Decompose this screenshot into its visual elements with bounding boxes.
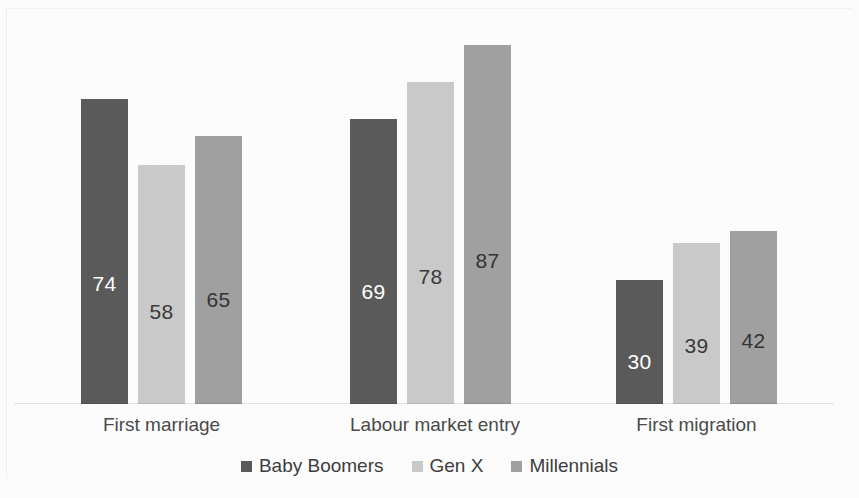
bar-value-label: 87 (464, 250, 511, 271)
category-label: Labour market entry (350, 414, 511, 436)
bar: 78 (407, 82, 454, 404)
x-axis-baseline (14, 403, 834, 404)
legend-swatch-icon (412, 461, 423, 472)
category-label: First migration (616, 414, 777, 436)
bar: 58 (138, 165, 185, 404)
bar: 87 (464, 45, 511, 404)
bar-value-label: 30 (616, 351, 663, 372)
bar-value-label: 42 (730, 330, 777, 351)
bar-value-label: 78 (407, 266, 454, 287)
bar: 65 (195, 136, 242, 404)
bar: 74 (81, 99, 128, 404)
bar-value-label: 74 (81, 273, 128, 294)
legend-label: Baby Boomers (259, 455, 384, 477)
bar: 39 (673, 243, 720, 404)
category-label: First marriage (81, 414, 242, 436)
bar: 30 (616, 280, 663, 404)
legend-label: Millennials (529, 455, 618, 477)
bar: 42 (730, 231, 777, 404)
legend-item[interactable]: Baby Boomers (241, 455, 384, 477)
legend-item[interactable]: Millennials (511, 455, 618, 477)
chart-legend: Baby BoomersGen XMillennials (0, 455, 859, 477)
legend-swatch-icon (511, 461, 522, 472)
legend-label: Gen X (430, 455, 484, 477)
bar-value-label: 69 (350, 281, 397, 302)
legend-item[interactable]: Gen X (412, 455, 484, 477)
bar-value-label: 39 (673, 335, 720, 356)
bar-chart: 745865697887303942 First marriageLabour … (0, 0, 859, 498)
bar-value-label: 65 (195, 289, 242, 310)
bar-value-label: 58 (138, 301, 185, 322)
bar: 69 (350, 119, 397, 404)
legend-swatch-icon (241, 461, 252, 472)
plot-area: 745865697887303942 (0, 0, 859, 404)
